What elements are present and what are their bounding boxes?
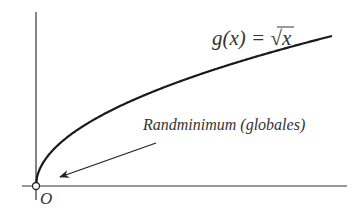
- origin-point: [33, 183, 40, 190]
- function-label: g(x) = √x: [212, 26, 292, 50]
- sqrt-curve: [36, 36, 332, 186]
- annotation-label: Randminimum (globales): [142, 116, 305, 134]
- sqrt-diagram: g(x) = √x Randminimum (globales) O: [0, 0, 357, 217]
- annotation-arrow: [60, 143, 156, 177]
- origin-label: O: [40, 189, 52, 208]
